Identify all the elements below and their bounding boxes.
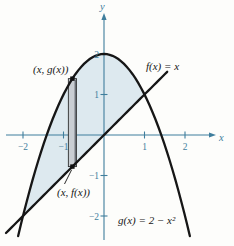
g-function-label: g(x) = 2 − x² (118, 214, 176, 227)
x-tick-label-neg2: −2 (18, 142, 28, 152)
x-tick-label-neg1: −1 (58, 142, 68, 152)
y-axis-arrow-icon (101, 13, 106, 20)
top-point-label: (x, g(x)) (33, 63, 69, 76)
function-graph-figure: y x 2 1 −1 −2 −2 −1 1 2 f(x) = x g(x) = … (0, 0, 234, 246)
x-tick-label-1: 1 (142, 142, 147, 152)
bottom-point-marker (70, 164, 74, 168)
x-tick-label-2: 2 (183, 142, 188, 152)
y-axis-label: y (99, 1, 105, 12)
y-tick-label-neg1: −1 (89, 171, 99, 181)
f-function-label: f(x) = x (146, 60, 179, 73)
bottom-point-label: (x, f(x)) (57, 186, 90, 199)
y-tick-label-neg2: −2 (89, 212, 99, 222)
x-axis-arrow-icon (209, 132, 216, 137)
plot-canvas: y x 2 1 −1 −2 −2 −1 1 2 f(x) = x g(x) = … (0, 0, 234, 246)
y-tick-label-2: 2 (94, 50, 99, 60)
y-tick-label-1: 1 (94, 90, 99, 100)
x-axis-label: x (218, 132, 224, 143)
representative-rectangle-layer (68, 79, 76, 167)
top-point-marker (70, 76, 74, 80)
